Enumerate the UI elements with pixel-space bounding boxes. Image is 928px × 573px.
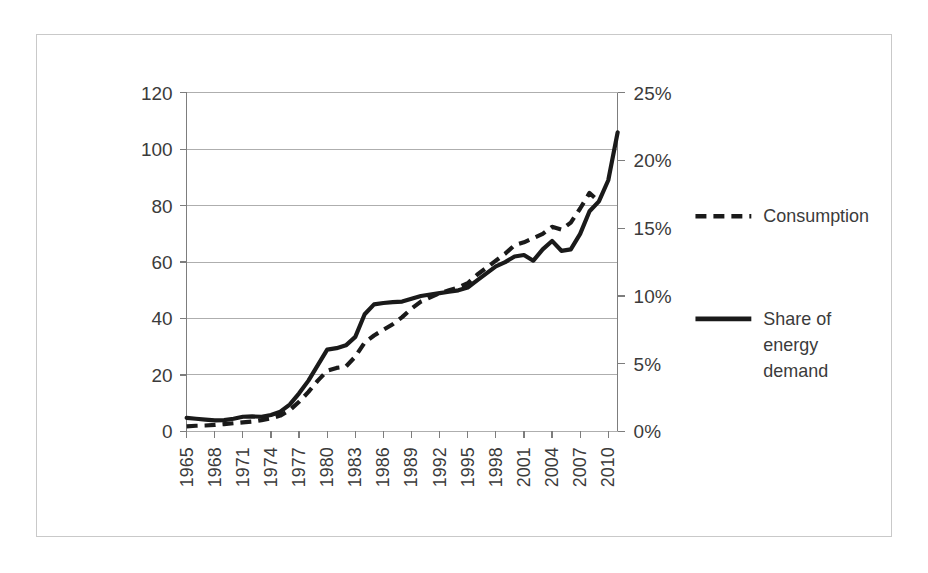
- x-axis-tick-label: 1998: [486, 447, 506, 487]
- y-axis-left-ticks: [180, 93, 187, 432]
- chart-frame: 020406080100120 0%5%10%15%20%25% 1965196…: [36, 34, 892, 537]
- y-axis-right-tick-label: 25%: [634, 83, 672, 104]
- line-chart: 020406080100120 0%5%10%15%20%25% 1965196…: [37, 35, 891, 536]
- x-axis-tick-label: 1977: [289, 447, 309, 487]
- x-axis-ticks: [187, 431, 609, 438]
- series-line-share-of-energy-demand: [187, 132, 618, 420]
- x-axis-tick-label: 2004: [542, 447, 562, 487]
- figure-container: 020406080100120 0%5%10%15%20%25% 1965196…: [0, 0, 928, 573]
- x-axis-tick-label: 2001: [514, 447, 534, 487]
- x-axis-tick-label: 1965: [177, 447, 197, 487]
- chart-legend: ConsumptionShare ofenergydemand: [695, 206, 869, 380]
- y-axis-left-tick-label: 120: [141, 83, 173, 104]
- y-axis-left-tick-label: 20: [152, 365, 173, 386]
- x-axis-tick-label: 1980: [317, 447, 337, 487]
- x-axis-tick-label: 1989: [401, 447, 421, 487]
- x-axis-tick-label: 1971: [233, 447, 253, 487]
- x-axis-tick-label: 2010: [598, 447, 618, 487]
- y-axis-left-tick-label: 80: [152, 196, 173, 217]
- legend-label-share-of-energy-demand: Share of: [763, 309, 832, 329]
- legend-label-consumption: Consumption: [763, 206, 869, 226]
- y-axis-right-tick-label: 20%: [634, 150, 672, 171]
- y-axis-right-tick-label: 10%: [634, 286, 672, 307]
- y-axis-right-tick-label: 0%: [634, 421, 662, 442]
- x-axis-tick-label: 1974: [261, 447, 281, 487]
- x-axis-tick-label: 1992: [430, 447, 450, 487]
- y-axis-left-tick-label: 40: [152, 309, 173, 330]
- legend-label-share-of-energy-demand: energy: [763, 335, 818, 355]
- y-axis-left-tick-label: 100: [141, 139, 173, 160]
- y-axis-left-tick-label: 0: [162, 421, 173, 442]
- y-axis-right-tick-label: 5%: [634, 354, 662, 375]
- x-axis-tick-label: 1983: [345, 447, 365, 487]
- y-axis-left-tick-label: 60: [152, 252, 173, 273]
- y-axis-left-labels: 020406080100120: [141, 83, 173, 443]
- x-axis-tick-label: 1968: [205, 447, 225, 487]
- gridlines-group: [187, 93, 618, 432]
- legend-label-share-of-energy-demand: demand: [763, 361, 828, 381]
- x-axis-tick-label: 1986: [373, 447, 393, 487]
- series-line-consumption: [187, 193, 599, 426]
- x-axis-labels: 1965196819711974197719801983198619891992…: [177, 447, 619, 487]
- y-axis-right-labels: 0%5%10%15%20%25%: [634, 83, 672, 443]
- y-axis-right-ticks: [618, 93, 625, 432]
- x-axis-tick-label: 1995: [458, 447, 478, 487]
- y-axis-right-tick-label: 15%: [634, 218, 672, 239]
- data-series-group: [187, 132, 618, 426]
- x-axis-tick-label: 2007: [570, 447, 590, 487]
